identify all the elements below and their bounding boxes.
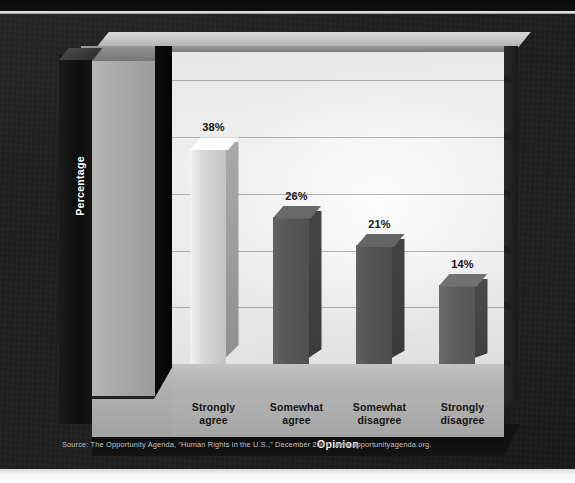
- bar-side-face: [392, 239, 405, 358]
- bar-value-label: 14%: [435, 258, 491, 270]
- bar-side-face: [226, 142, 239, 358]
- bar-front-face: [273, 217, 309, 364]
- y-axis-title: Percentage: [74, 141, 86, 231]
- gridline: [172, 80, 504, 81]
- bar-column: [439, 285, 475, 364]
- source-caption: Source: The Opportunity Agenda, “Human R…: [62, 440, 522, 449]
- bar-side-face: [309, 211, 322, 358]
- top-white-edge: [0, 11, 575, 14]
- bar-side-face: [475, 279, 488, 358]
- x-axis-category-line: disagree: [337, 414, 423, 427]
- x-axis-category-line: disagree: [420, 414, 506, 427]
- chart-left-outer-wall: [59, 54, 92, 424]
- x-axis-category-line: agree: [171, 414, 257, 427]
- bar-front-face: [190, 148, 226, 364]
- bar-column: [190, 148, 226, 364]
- x-axis-category-line: Strongly: [171, 401, 257, 414]
- bar-value-label: 21%: [352, 218, 408, 230]
- x-axis-category-line: Somewhat: [337, 401, 423, 414]
- bar-column: [356, 245, 392, 364]
- screenshot-root: Percentage 0%10%20%30%40%50% 38%26%21%14…: [0, 0, 575, 483]
- x-axis-strip: StronglyagreeSomewhatagreeSomewhatdisagr…: [172, 399, 504, 437]
- x-axis-strip-left: [92, 399, 172, 437]
- y-axis-pillar: [92, 60, 155, 396]
- bar-column: [273, 217, 309, 364]
- bottom-white-edge: [0, 469, 575, 483]
- x-axis-category-label: Stronglydisagree: [420, 401, 506, 427]
- bar-value-label: 38%: [186, 121, 242, 133]
- x-axis-category-label: Somewhatdisagree: [337, 401, 423, 427]
- x-axis-category-line: Strongly: [420, 401, 506, 414]
- x-axis-category-line: Somewhat: [254, 401, 340, 414]
- x-axis-category-label: Stronglyagree: [171, 401, 257, 427]
- y-axis-inner-shadow: [155, 46, 172, 398]
- bar-chart: Percentage 0%10%20%30%40%50% 38%26%21%14…: [59, 32, 517, 432]
- bar-front-face: [439, 285, 475, 364]
- plot-area: 38%26%21%14%: [172, 52, 504, 399]
- bar-front-face: [356, 245, 392, 364]
- bar-value-label: 26%: [269, 190, 325, 202]
- x-axis-category-label: Somewhatagree: [254, 401, 340, 427]
- chart-right-wall: [504, 46, 518, 402]
- x-axis-category-line: agree: [254, 414, 340, 427]
- plot-floor: [172, 364, 504, 399]
- chart-right-wall-bevel: [504, 400, 518, 424]
